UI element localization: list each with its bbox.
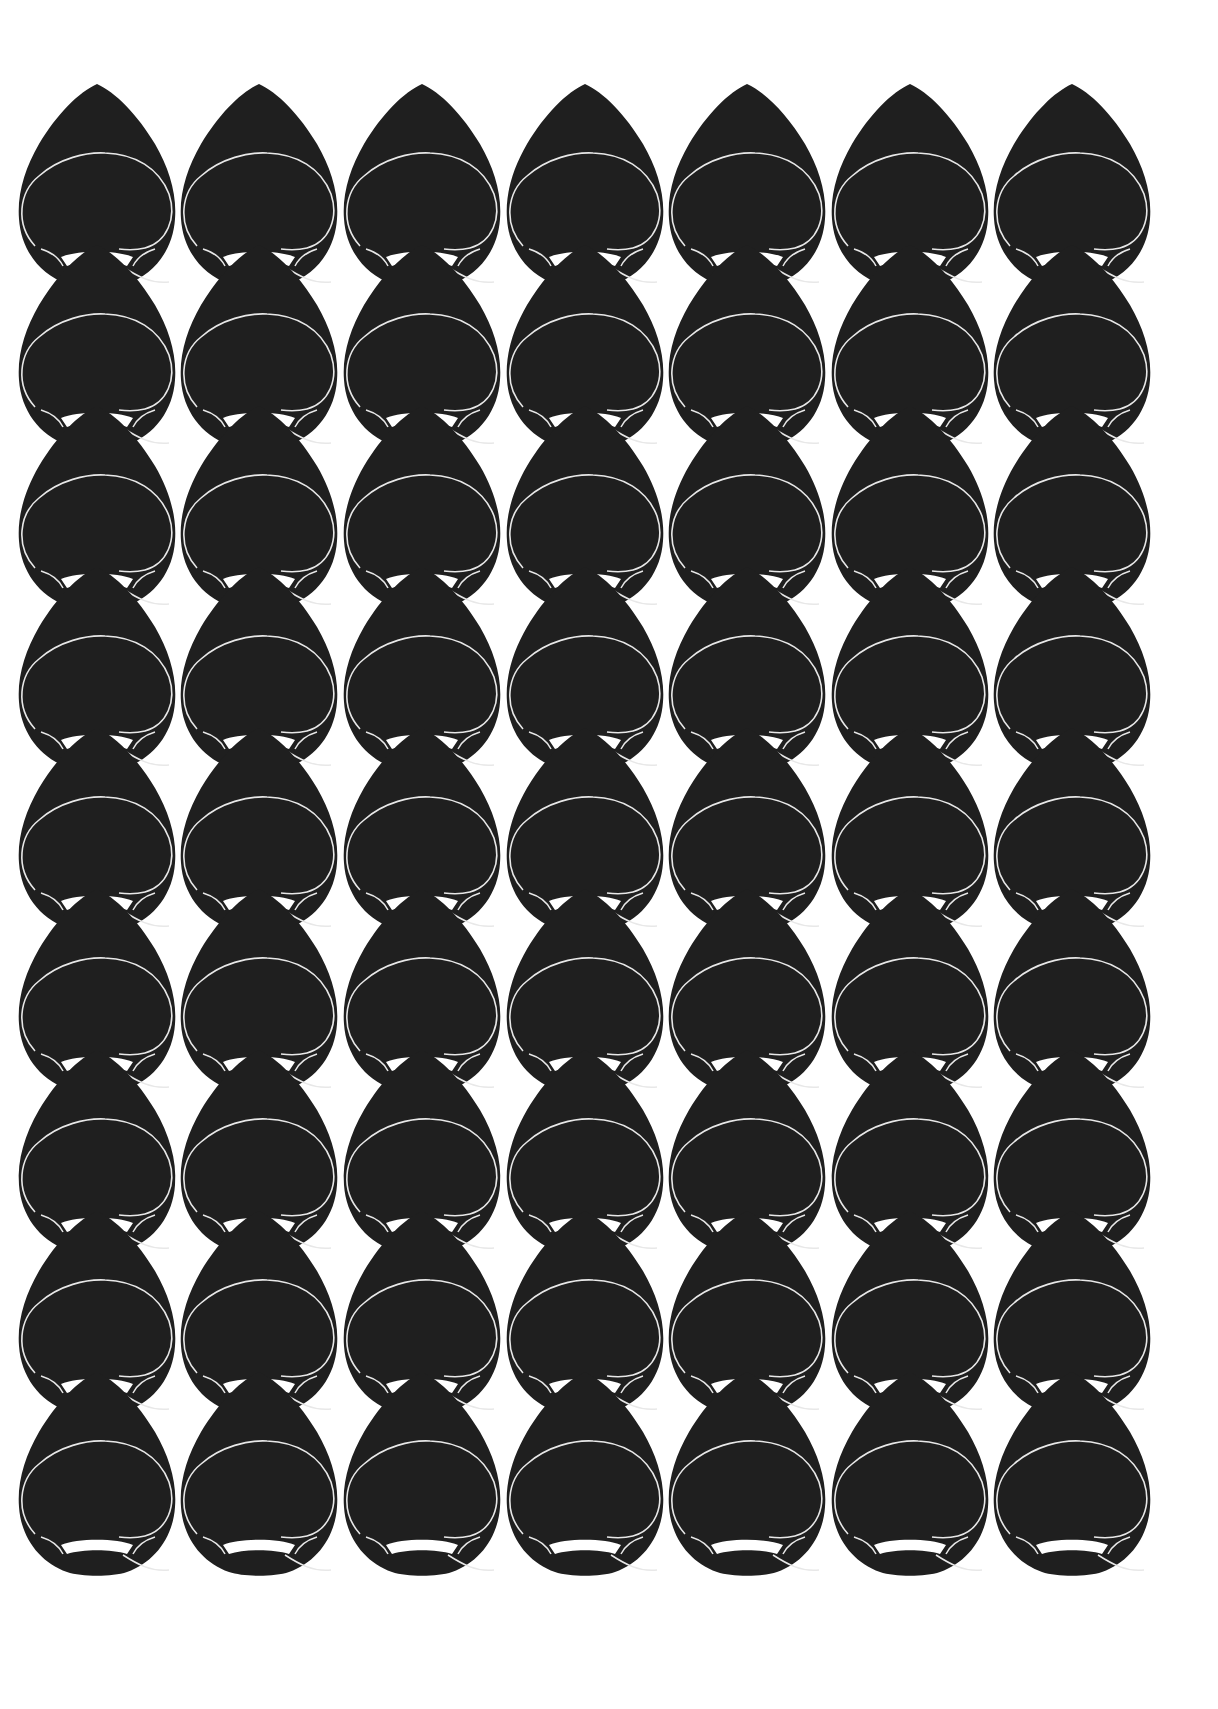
pattern-sheet	[0, 0, 1218, 1709]
motif-grid	[19, 84, 1151, 1576]
